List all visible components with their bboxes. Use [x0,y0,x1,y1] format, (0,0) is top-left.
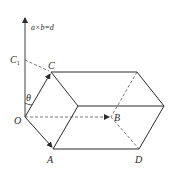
label-o: O [14,115,21,126]
vector-oa [25,117,52,147]
parallelepiped-edges [51,72,164,149]
hidden-edges [111,72,139,149]
projection-line-c1-c [25,60,49,71]
label-d: D [134,154,143,165]
label-a: A [46,154,54,165]
equation-label: a×b=d [31,23,55,32]
label-c: C [48,60,55,71]
theta-angle-arc [25,103,32,105]
label-c1: C1 [10,54,20,66]
label-theta: θ [26,92,31,103]
parallelepiped-diagram: a×b=d C1 C θ O B A D [0,0,174,174]
label-b: B [114,112,120,123]
